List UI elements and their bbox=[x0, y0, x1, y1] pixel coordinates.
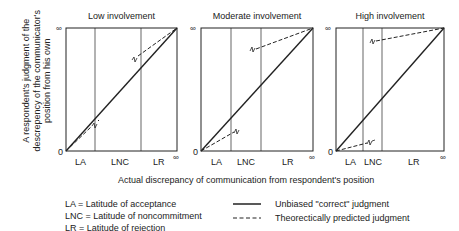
origin-label: 0 bbox=[193, 147, 198, 157]
x-infinity-label: ∞ bbox=[440, 153, 446, 162]
zone-lr: LR bbox=[153, 157, 165, 167]
legend-dashed-label: Theorectically predicted judgment bbox=[275, 212, 410, 224]
diagram-graphics bbox=[0, 0, 459, 231]
origin-label: 0 bbox=[328, 147, 333, 157]
panel-title-low: Low involvement bbox=[66, 11, 177, 21]
panel-moderate-involvement bbox=[201, 28, 313, 151]
zone-lnc: LNC bbox=[111, 157, 129, 167]
zone-la: LA bbox=[211, 157, 222, 167]
zone-la: LA bbox=[345, 157, 356, 167]
legend-lnc: LNC = Latitude of noncommitment bbox=[65, 210, 202, 222]
y-infinity-label: ∞ bbox=[190, 24, 196, 33]
x-infinity-label: ∞ bbox=[173, 153, 179, 162]
x-infinity-label: ∞ bbox=[309, 153, 315, 162]
zone-lnc: LNC bbox=[364, 157, 382, 167]
zone-lnc: LNC bbox=[237, 157, 255, 167]
zone-lr: LR bbox=[408, 157, 420, 167]
legend-lr: LR = Latitude of rejection bbox=[65, 222, 202, 231]
zone-la: LA bbox=[75, 157, 86, 167]
y-infinity-label: ∞ bbox=[325, 24, 331, 33]
panel-high-involvement bbox=[336, 28, 444, 151]
panel-low-involvement bbox=[66, 28, 177, 151]
legend-la: LA = Latitude of acceptance bbox=[65, 198, 202, 210]
y-infinity-label: ∞ bbox=[56, 24, 62, 33]
zone-lr: LR bbox=[282, 157, 294, 167]
legend-solid-label: Unbiased "correct" judgment bbox=[275, 198, 389, 210]
y-axis-label: A respondent's judgment of the descrepen… bbox=[21, 6, 53, 156]
origin-label: 0 bbox=[58, 147, 63, 157]
legend-abbreviations: LA = Latitude of acceptance LNC = Latitu… bbox=[65, 198, 202, 231]
panel-title-moderate: Moderate involvement bbox=[196, 11, 318, 21]
x-axis-label: Actual discrepancy of communication from… bbox=[118, 175, 374, 185]
panel-title-high: High involvement bbox=[336, 11, 444, 21]
